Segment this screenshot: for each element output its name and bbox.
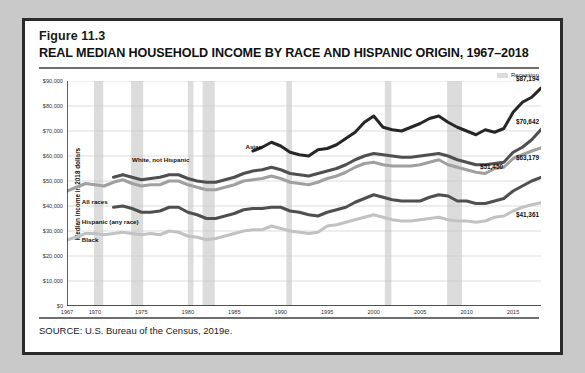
x-axis-tick-label: 2005 — [414, 309, 426, 315]
x-axis-tick-label: 1985 — [228, 309, 240, 315]
end-value-label-all-races: $63,179 — [516, 154, 539, 161]
y-axis-tick-label: $10,000 — [23, 278, 63, 284]
series-line-asian — [253, 88, 541, 156]
end-value-label-black: $41,361 — [516, 211, 539, 218]
x-axis-tick-label: 2010 — [460, 309, 472, 315]
recession-band — [286, 81, 292, 306]
line-chart-svg — [67, 81, 541, 306]
x-axis-tick-label: 1975 — [135, 309, 147, 315]
recession-band — [385, 81, 392, 306]
end-value-label-hispanic-any-race: $51,450 — [480, 163, 503, 170]
recession-swatch-icon — [497, 73, 508, 78]
series-label-white-not-hispanic: White, not Hispanic — [132, 156, 189, 163]
y-axis-tick-label: $60,000 — [23, 153, 63, 159]
figure-number: Figure 11.3 — [39, 29, 105, 43]
y-axis-tick-label: $70,000 — [23, 128, 63, 134]
end-value-label-white-not-hispanic: $70,642 — [516, 118, 539, 125]
series-label-all-races: All races — [82, 198, 108, 205]
figure-container: Figure 11.3 REAL MEDIAN HOUSEHOLD INCOME… — [0, 0, 585, 373]
y-axis-tick-label: $20,000 — [23, 253, 63, 259]
recession-band — [131, 81, 143, 306]
x-axis-tick-label: 1990 — [275, 309, 287, 315]
recession-band — [188, 81, 194, 306]
series-line-hispanic-any-race — [113, 177, 541, 218]
recession-band — [94, 81, 103, 306]
x-axis-tick-label: 1970 — [89, 309, 101, 315]
chart-plot-area: Median income in 2018 dollars Recession … — [67, 81, 541, 306]
figure-title: REAL MEDIAN HOUSEHOLD INCOME BY RACE AND… — [39, 46, 529, 60]
series-label-asian: Asian — [245, 143, 262, 150]
x-axis-tick-label: 1995 — [321, 309, 333, 315]
y-axis-tick-label: $80,000 — [23, 103, 63, 109]
title-divider — [39, 67, 539, 69]
end-value-label-asian: $87,194 — [516, 75, 539, 82]
x-axis-tick-label: 1967 — [61, 309, 73, 315]
y-axis-tick-label: $40,000 — [23, 203, 63, 209]
series-label-black: Black — [82, 236, 99, 243]
y-axis-tick-label: $0 — [23, 303, 63, 309]
x-axis-tick-label: 2015 — [507, 309, 519, 315]
x-axis-tick-label: 1980 — [182, 309, 194, 315]
recession-band — [203, 81, 215, 306]
y-axis-tick-label: $90,000 — [23, 78, 63, 84]
y-axis-tick-label: $50,000 — [23, 178, 63, 184]
source-note: SOURCE: U.S. Bureau of the Census, 2019e… — [39, 325, 232, 336]
recession-band — [447, 81, 462, 306]
figure-frame: Figure 11.3 REAL MEDIAN HOUSEHOLD INCOME… — [22, 18, 563, 355]
x-axis-tick-label: 2000 — [367, 309, 379, 315]
series-label-hispanic-any-race: Hispanic (any race) — [82, 218, 139, 225]
source-divider — [39, 317, 539, 319]
y-axis-tick-label: $30,000 — [23, 228, 63, 234]
